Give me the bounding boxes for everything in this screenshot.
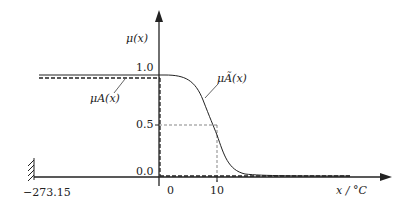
y-tick-1: 1.0	[136, 62, 154, 73]
absolute-zero-wall-icon	[28, 158, 34, 181]
fuzzy-membership-curve	[39, 75, 350, 176]
y-axis-arrow-icon	[155, 10, 163, 22]
abs-zero-label: −273.15	[23, 187, 71, 198]
x-tick-0: 0	[167, 185, 174, 196]
crisp-curve-label: μA(x)	[90, 93, 120, 104]
leader-muAt	[205, 84, 218, 98]
fuzzy-curve-label: μÃ(x)	[217, 73, 247, 84]
membership-diagram	[0, 0, 408, 212]
x-axis-label: x / °C	[336, 185, 367, 196]
y-tick-half: 0.5	[136, 119, 154, 130]
leader-muA	[114, 79, 125, 93]
crisp-membership-curve	[39, 78, 350, 176]
y-tick-0: 0.0	[136, 166, 154, 177]
x-tick-10: 10	[210, 185, 224, 196]
y-axis-label: μ(x)	[126, 33, 148, 44]
x-axis-arrow-icon	[380, 173, 392, 181]
